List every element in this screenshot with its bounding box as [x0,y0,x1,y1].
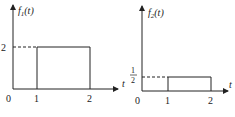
y-label-f1: f1(t) [18,5,34,18]
plot-f2: f2(t) 1 2 0 1 2 t [130,6,232,106]
diagram-canvas: f1(t) 2 0 1 2 t f2(t) 1 2 0 1 2 t [0,0,235,117]
origin-label: 0 [135,95,140,106]
x-label-t: t [229,79,232,90]
pulse-f1 [37,47,90,89]
x-tick-1: 1 [34,93,39,104]
x-label-t: t [122,78,125,89]
x-tick-2: 2 [208,95,213,106]
pulse-f2 [168,77,211,91]
y-label-f2: f2(t) [148,7,164,20]
x-tick-1: 1 [165,95,170,106]
y-tick-half-num: 1 [131,66,135,75]
x-tick-2: 2 [87,93,92,104]
y-tick-2: 2 [1,42,6,53]
y-tick-half-den: 2 [131,76,135,85]
plot-f1: f1(t) 2 0 1 2 t [1,5,125,104]
origin-label: 0 [6,93,11,104]
